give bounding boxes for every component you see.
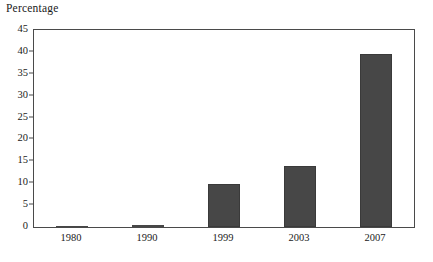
y-tick-mark [29, 72, 33, 73]
y-tick-label: 10 [0, 177, 28, 188]
y-tick-label: 20 [0, 133, 28, 144]
bar-1999 [208, 184, 240, 227]
bar-2007 [360, 54, 392, 227]
y-tick-mark [29, 50, 33, 51]
plot-area [33, 29, 415, 228]
y-tick-label: 25 [0, 111, 28, 122]
y-axis-tick-labels: 051015202530354045 [0, 29, 28, 228]
y-tick-mark [29, 160, 33, 161]
y-tick-label: 30 [0, 89, 28, 100]
y-tick-label: 0 [0, 221, 28, 232]
x-tick-label: 1990 [137, 232, 158, 244]
y-tick-label: 15 [0, 155, 28, 166]
y-tick-label: 35 [0, 68, 28, 79]
y-tick-label: 40 [0, 46, 28, 57]
y-axis-title: Percentage [6, 2, 58, 15]
y-tick-mark [29, 116, 33, 117]
y-tick-mark [29, 138, 33, 139]
bar-1980 [56, 226, 88, 228]
x-tick-label: 2007 [365, 232, 386, 244]
bar-1990 [132, 225, 164, 227]
y-tick-label: 5 [0, 199, 28, 210]
x-tick-label: 1980 [61, 232, 82, 244]
bar-2003 [284, 166, 316, 227]
bar-chart: Percentage 051015202530354045 1980199019… [0, 0, 433, 262]
x-tick-label: 2003 [289, 232, 310, 244]
x-axis-tick-labels: 19801990199920032007 [33, 232, 415, 250]
y-tick-mark [29, 204, 33, 205]
y-tick-mark [29, 182, 33, 183]
y-tick-label: 45 [0, 24, 28, 35]
y-tick-mark [29, 94, 33, 95]
x-tick-label: 1999 [213, 232, 234, 244]
